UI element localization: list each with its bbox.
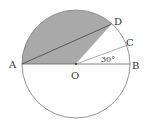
label-A: A [8,59,17,70]
angle-label: 30° [101,55,115,64]
center-point [75,63,77,65]
label-D: D [114,16,122,27]
label-B: B [132,60,139,71]
label-C: C [126,37,134,48]
circle-diagram: A B C D O 30° [0,0,147,128]
label-O: O [71,70,79,81]
